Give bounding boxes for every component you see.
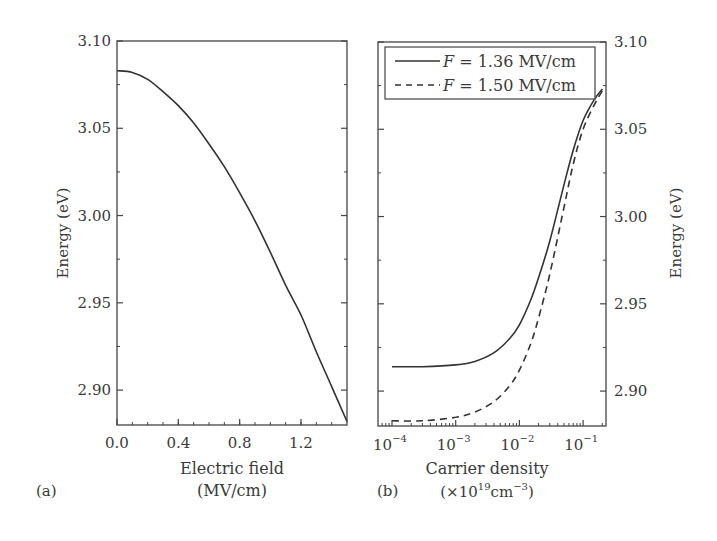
y-tick-label: 2.90	[614, 382, 647, 400]
y-tick-label: 3.05	[78, 119, 111, 137]
x-tick-label: 0.0	[105, 434, 129, 452]
x-tick-label: 0.8	[228, 434, 252, 452]
legend-entry-2: F = 1.50 MV/cm	[442, 76, 576, 95]
x-tick-label: 10−1	[564, 433, 598, 454]
panel-b-y-label: Energy (eV)	[667, 188, 685, 279]
panel-a-x-ticks: 0.00.40.81.2	[105, 419, 332, 452]
x-tick-label: 10−4	[373, 433, 407, 454]
y-tick-label: 3.10	[78, 32, 111, 50]
panel-b-x-ticks: 10−410−310−210−1	[373, 420, 602, 454]
panel-a-x-label: Electric field	[180, 459, 284, 478]
x-tick-label: 1.2	[289, 434, 313, 452]
x-tick-label: 0.4	[166, 434, 190, 452]
y-tick-label: 3.05	[614, 120, 647, 138]
panel-a-x-unit: (MV/cm)	[197, 481, 267, 500]
y-tick-label: 3.00	[78, 207, 111, 225]
legend: F = 1.36 MV/cm F = 1.50 MV/cm	[385, 47, 595, 99]
panel-a-y-ticks: 3.103.053.002.952.90	[78, 32, 347, 399]
panel-b-x-unit: (×1019cm−3)	[440, 481, 533, 501]
legend-entry-1: F = 1.36 MV/cm	[442, 52, 576, 71]
panel-a-curve	[117, 71, 347, 422]
panel-a-label: (a)	[36, 482, 57, 500]
y-tick-label: 2.95	[78, 294, 111, 312]
y-tick-label: 2.90	[78, 381, 111, 399]
panel-b-label: (b)	[377, 482, 398, 500]
panel-a: 3.103.053.002.952.90 0.00.40.81.2 Energy…	[36, 32, 347, 500]
panel-b-curve-dashed	[392, 91, 602, 421]
y-tick-label: 3.10	[614, 33, 647, 51]
panel-b-curve-solid	[392, 89, 602, 367]
y-tick-label: 2.95	[614, 295, 647, 313]
x-tick-label: 10−2	[500, 433, 534, 454]
y-tick-label: 3.00	[614, 208, 647, 226]
panel-a-frame	[117, 41, 347, 425]
figure: 3.103.053.002.952.90 0.00.40.81.2 Energy…	[0, 0, 717, 541]
panel-a-y-label: Energy (eV)	[54, 188, 72, 279]
panel-b: 3.103.053.002.952.90 10−410−310−210−1 F …	[373, 33, 685, 501]
x-tick-label: 10−3	[437, 433, 471, 454]
panel-b-x-label: Carrier density	[425, 459, 548, 478]
